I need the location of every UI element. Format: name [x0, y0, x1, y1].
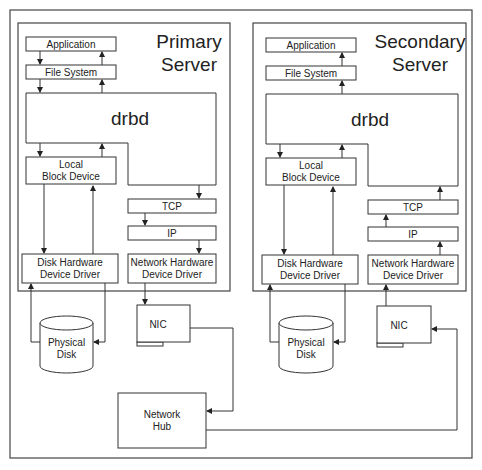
primary-disk-driver-line1: Disk Hardware — [37, 257, 103, 268]
primary-disk-driver-line2: Device Driver — [40, 269, 101, 280]
primary-local-block-line1: Local — [59, 159, 83, 170]
disk-top — [40, 316, 93, 330]
arrow-disk-to-driver — [270, 285, 279, 342]
primary-application-label: Application — [47, 39, 96, 50]
arrow-driver-to-disk — [94, 283, 105, 342]
secondary-drbd-label: drbd — [351, 109, 389, 130]
hub-line2: Hub — [153, 421, 172, 432]
primary-physical-disk: Physical Disk — [40, 316, 93, 373]
nic-tab — [377, 343, 403, 347]
arrow-driver-to-disk — [334, 284, 345, 342]
secondary-net-driver-line1: Network Hardware — [372, 258, 455, 269]
secondary-local-block-line2: Block Device — [282, 172, 340, 183]
secondary-physical-disk: Physical Disk — [279, 316, 333, 373]
network-hub: Network Hub — [118, 393, 206, 448]
primary-ip-label: IP — [167, 228, 177, 239]
nic-tab — [137, 342, 163, 346]
primary-nic: NIC — [137, 305, 190, 346]
primary-title-line1: Primary — [156, 31, 222, 52]
primary-net-driver-line1: Network Hardware — [131, 257, 214, 268]
primary-file-system-label: File System — [45, 67, 97, 78]
secondary-title-line1: Secondary — [375, 31, 466, 52]
primary-net-driver-line2: Device Driver — [142, 269, 203, 280]
secondary-disk-line1: Physical — [287, 337, 324, 348]
primary-disk-line1: Physical — [48, 337, 85, 348]
secondary-tcp-label: TCP — [403, 202, 423, 213]
disk-top — [279, 316, 333, 330]
primary-drbd-label: drbd — [111, 108, 149, 129]
secondary-net-driver-line2: Device Driver — [383, 270, 444, 281]
primary-local-block-line2: Block Device — [42, 171, 100, 182]
secondary-disk-driver-line2: Device Driver — [280, 270, 341, 281]
primary-title-line2: Server — [161, 54, 218, 75]
secondary-server: Secondary Server Application File System… — [253, 23, 466, 373]
primary-disk-line2: Disk — [57, 349, 77, 360]
secondary-title-line2: Server — [392, 54, 449, 75]
secondary-disk-driver-line1: Disk Hardware — [277, 258, 343, 269]
secondary-local-block-line1: Local — [299, 160, 323, 171]
primary-tcp-label: TCP — [162, 201, 182, 212]
secondary-ip-label: IP — [408, 229, 418, 240]
secondary-nic-label: NIC — [390, 320, 407, 331]
secondary-file-system-label: File System — [285, 68, 337, 79]
arrow-disk-to-driver — [31, 284, 40, 342]
hub-line1: Network — [144, 409, 182, 420]
secondary-nic: NIC — [377, 306, 431, 347]
secondary-disk-line2: Disk — [296, 349, 316, 360]
drbd-architecture-diagram: Primary Server Application File System d… — [0, 0, 482, 470]
primary-nic-label: NIC — [149, 319, 166, 330]
secondary-application-label: Application — [287, 40, 336, 51]
primary-server: Primary Server Application File System d… — [18, 23, 230, 373]
